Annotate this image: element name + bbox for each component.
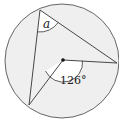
inscribed-angle-label: a <box>43 17 50 31</box>
central-angle-label: 126° <box>60 74 87 87</box>
center-point <box>61 58 65 62</box>
circle-diagram: a 126° <box>0 0 119 122</box>
